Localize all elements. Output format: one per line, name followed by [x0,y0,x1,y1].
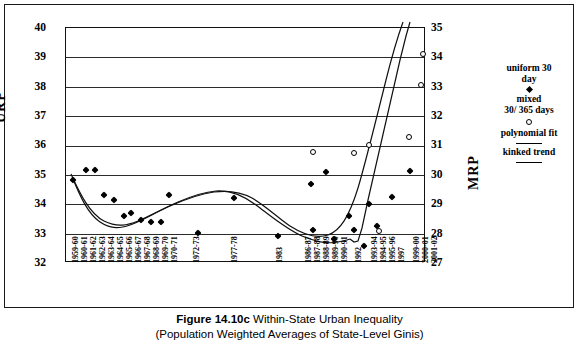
y-tick-left: 33 [16,228,46,238]
diamond-marker-icon [525,86,532,93]
x-tick-label: 2000-01 [422,236,430,263]
x-axis-labels: 1959-60 1960-61 1961-62 1962-63 1963-64 … [65,263,425,315]
line-marker-icon-2 [516,162,542,163]
x-tick-label: 1967-68 [144,236,152,263]
x-tick-label: 1960-61 [81,236,89,263]
x-tick-label: 1963-64 [108,236,116,263]
x-tick-label: 1969-70 [162,236,170,263]
caption-figure-number: Figure 14.10c [176,313,250,325]
x-tick-label: 1995-96 [389,236,397,263]
data-point-open [366,142,372,148]
y-tick-left: 40 [16,22,46,32]
x-tick-label: 1999-00 [413,236,421,263]
y-tick-right: 33 [431,81,461,91]
y-tick-right: 34 [431,51,461,61]
x-tick-label: 1993-94 [371,236,379,263]
kinked-trend-segment [350,22,410,242]
x-tick-label: 1994-95 [380,236,388,263]
x-tick-label: 1962-63 [99,236,107,263]
figure-frame: URP MRP 40 39 38 37 36 35 34 33 32 35 34… [4,4,574,308]
data-point-open [351,150,357,156]
data-point-open [376,228,382,234]
y-tick-left: 38 [16,81,46,91]
caption-line-1: Figure 14.10c Within-State Urban Inequal… [0,312,579,327]
x-tick-label: 1990-91 [341,236,349,263]
polynomial-fit-line [73,22,403,237]
x-tick-label: 1972-73 [193,236,201,263]
y-tick-left: 34 [16,198,46,208]
x-tick-label: 1983 [276,247,284,263]
x-tick-label: 1987-88 [314,236,322,263]
x-tick-label: 1959-60 [72,236,80,263]
data-point-open [310,149,316,155]
y2-axis-title-mrp: MRP [466,155,482,190]
y-tick-left: 32 [16,257,46,267]
legend-label-uniform-line2: day [483,74,575,85]
legend-label-mixed-line2: 30/ 365 days [483,105,575,116]
circle-marker-icon [526,119,532,125]
y-axis-title-urp: URP [0,91,9,123]
y-tick-right: 30 [431,169,461,179]
plot-area [65,27,425,262]
legend-label-polynomial-fit: polynomial fit [483,128,575,139]
chart-legend: uniform 30 day mixed 30/ 365 days polyno… [483,63,575,166]
legend-label-kinked-trend: kinked trend [483,147,575,158]
data-point-open [420,51,426,57]
x-tick-label: 1986-87 [305,236,313,263]
caption-title: Within-State Urban Inequality [253,313,403,325]
x-tick-label: 1988-89 [323,236,331,263]
y-tick-left: 36 [16,139,46,149]
y-tick-right: 35 [431,22,461,32]
figure-caption: Figure 14.10c Within-State Urban Inequal… [0,312,579,342]
fit-curves [66,28,426,263]
y-tick-right: 31 [431,139,461,149]
x-tick-label: 1989-90 [332,236,340,263]
y-tick-right: 32 [431,110,461,120]
y-tick-left: 35 [16,169,46,179]
x-tick-label: 1992 [355,247,363,263]
x-tick-label: 1965-66 [126,236,134,263]
x-tick-label: 1961-62 [90,236,98,263]
y-tick-left: 37 [16,110,46,120]
x-tick-label: 1966-67 [135,236,143,263]
x-tick-label: 1964-65 [117,236,125,263]
line-marker-icon [516,143,542,144]
x-tick-label: 2001-02 [431,236,439,263]
y-tick-right: 29 [431,198,461,208]
data-point-open [418,82,424,88]
x-tick-label: 1997 [398,247,406,263]
x-tick-label: 1968-69 [153,236,161,263]
x-tick-label: 1977-78 [231,236,239,263]
caption-line-2: (Population Weighted Averages of State-L… [0,327,579,342]
legend-label-uniform-line1: uniform 30 [483,63,575,74]
y-tick-left: 39 [16,51,46,61]
x-tick-label: 1970-71 [171,236,179,263]
data-point-open [406,134,412,140]
legend-label-mixed-line1: mixed [483,94,575,105]
